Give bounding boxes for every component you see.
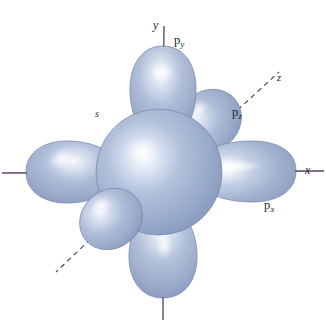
py-orbital-label: py [174, 34, 184, 47]
py-label-subscript: y [181, 39, 185, 49]
orbital-diagram-figure: y x z s py pz px [0, 0, 326, 330]
y-axis-label: y [153, 19, 158, 31]
px-label-base: p [264, 198, 270, 212]
orbital-canvas [0, 0, 326, 330]
px-orbital-label: px [264, 199, 274, 212]
orbital-lobes [26, 46, 296, 298]
py-label-base: p [174, 33, 180, 47]
z-axis-label: z [277, 73, 281, 84]
x-axis-label: x [305, 164, 310, 176]
y-axis-stub-top [164, 26, 165, 47]
s-orbital-label: s [95, 109, 99, 119]
pz-orbital-label: pz [232, 106, 242, 119]
pz-label-subscript: z [239, 111, 242, 121]
px-label-subscript: x [271, 204, 275, 214]
pz-label-base: p [232, 105, 238, 119]
